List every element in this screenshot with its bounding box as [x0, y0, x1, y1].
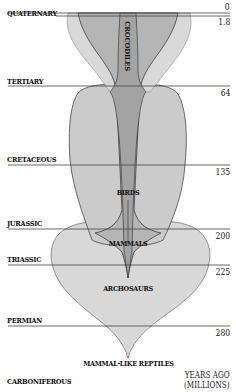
- period-label-jurassic: JURASSIC: [7, 218, 42, 228]
- age-label-1-8: 1.8: [218, 17, 230, 27]
- axis-units-label: YEARS AGO (MILLIONS): [184, 370, 230, 390]
- evolution-diagram: QUATERNARY TERTIARY CRETACEOUS JURASSIC …: [0, 0, 236, 392]
- age-label-225: 225: [215, 267, 230, 277]
- clade-label-birds: BIRDS: [112, 187, 144, 197]
- period-label-permian: PERMIAN: [7, 315, 42, 325]
- clade-label-crocodiles: CROCODILES: [123, 21, 133, 69]
- period-label-cretaceous: CRETACEOUS: [7, 154, 56, 164]
- age-label-280: 280: [215, 328, 230, 338]
- period-label-quaternary: QUATERNARY: [7, 8, 57, 18]
- clade-label-mammals: MAMMALS: [106, 238, 151, 248]
- age-label-200: 200: [215, 231, 230, 241]
- period-label-tertiary: TERTIARY: [7, 76, 43, 86]
- units-line-1: YEARS AGO: [184, 370, 230, 380]
- age-label-135: 135: [215, 167, 230, 177]
- clade-label-archosaurs: ARCHOSAURS: [101, 283, 155, 293]
- period-label-triassic: TRIASSIC: [7, 254, 41, 264]
- period-label-carboniferous: CARBONIFEROUS: [7, 376, 71, 386]
- age-label-64: 64: [220, 88, 230, 98]
- age-label-0: 0: [225, 2, 230, 12]
- clade-label-mammal-like-reptiles: MAMMAL-LIKE REPTILES: [83, 358, 173, 368]
- units-line-2: (MILLIONS): [184, 380, 230, 390]
